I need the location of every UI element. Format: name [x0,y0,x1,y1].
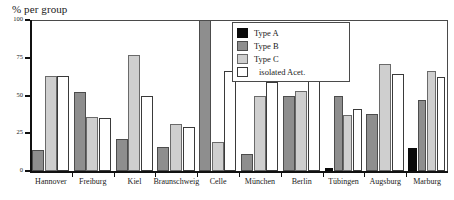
bar [212,142,224,171]
bar [283,96,295,172]
chart-title: % per group [12,3,67,15]
bar [32,150,44,171]
bar [116,139,128,171]
legend-item: Type A [237,26,345,39]
bar [427,71,436,171]
bar [99,118,111,171]
bar [141,96,153,172]
legend-swatch-icon [237,54,248,64]
bar [418,100,427,171]
chart-legend: Type AType BType Cisolated Acet. [232,22,350,82]
x-axis-separator [323,173,324,177]
legend-swatch-icon [237,67,248,77]
legend-label: Type B [254,41,279,51]
bar [437,77,446,171]
bar-group [155,20,197,171]
bar [325,168,334,171]
x-axis-label-celle: Celle [210,177,227,187]
y-tick-label: 0 [20,166,23,173]
x-axis-label-braunschweig: Braunschweig [153,177,199,187]
x-axis-label-kiel: Kiel [128,177,142,187]
bar [408,148,417,171]
bar [57,76,69,171]
x-axis-label-freiburg: Freiburg [79,177,106,187]
y-tick-label: 25 [17,128,24,135]
legend-label: Type C [254,54,279,64]
bar-group [364,20,406,171]
bar [334,96,343,172]
bar [86,117,98,171]
x-axis-label-münchen: München [245,177,275,187]
bar [343,115,352,171]
bar [366,114,378,171]
x-axis-label-berlin: Berlin [292,177,312,187]
bar [295,91,307,171]
bar [392,74,404,171]
legend-label: isolated Acet. [254,67,305,77]
x-axis-separator [364,173,365,177]
bar [157,147,169,171]
x-axis-label-augsburg: Augsburg [370,177,401,187]
bar-group [30,20,72,171]
bar [379,64,391,171]
bar [45,76,57,171]
bar [254,96,266,172]
x-axis-separator [281,173,282,177]
x-axis-separator [239,173,240,177]
bar [308,71,320,171]
x-axis-separator [72,173,73,177]
legend-item: Type C [237,52,345,65]
x-axis-separator [114,173,115,177]
legend-label: Type A [254,28,279,38]
bar-chart: % per group 0255075100 HannoverFreiburgK… [0,0,454,200]
bar-group [72,20,114,171]
x-axis-separator [406,173,407,177]
y-tick-label: 100 [13,15,23,22]
x-axis-separator [197,173,198,177]
y-tick-label: 50 [17,91,24,98]
x-axis-label-tübingen: Tübingen [328,177,359,187]
bar [199,20,211,171]
x-axis-label-hannover: Hannover [35,177,67,187]
bar-group [406,20,448,171]
bar [128,55,140,171]
legend-swatch-icon [237,41,248,51]
bar [183,127,195,171]
legend-item: Type B [237,39,345,52]
legend-item: isolated Acet. [237,65,345,78]
bar-group [114,20,156,171]
bar [241,154,253,171]
bar [353,109,362,171]
bar [170,124,182,171]
x-axis-label-marburg: Marburg [413,177,441,187]
bar [74,92,86,171]
bar [266,82,278,171]
y-tick-label: 75 [17,53,24,60]
bar [224,71,236,171]
legend-swatch-icon [237,28,248,38]
